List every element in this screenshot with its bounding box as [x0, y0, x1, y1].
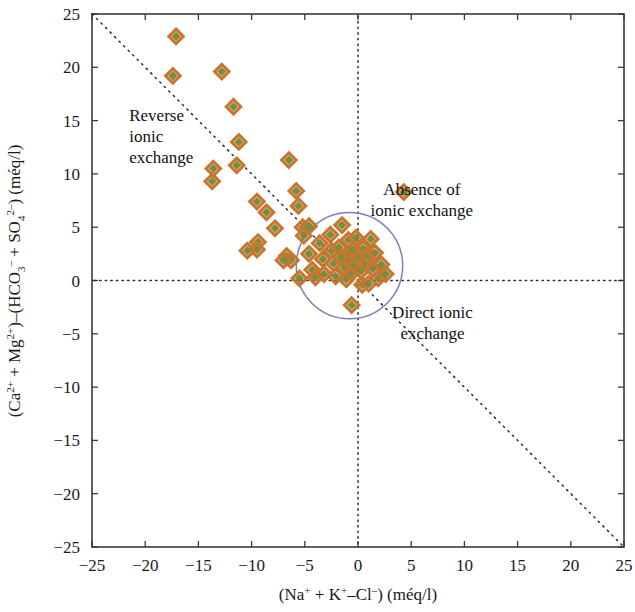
y-tick-label: 20: [63, 58, 80, 77]
y-tick-label: −15: [53, 431, 80, 450]
x-tick-label: −20: [132, 556, 159, 575]
reverse-ionic-exchange-label-line: ionic: [129, 127, 163, 146]
data-point-marker: [291, 199, 305, 213]
data-point-marker: [169, 29, 183, 43]
x-tick-label: −15: [185, 556, 212, 575]
absence-of-ionic-exchange-label-line: Absence of: [383, 180, 460, 199]
data-point-marker: [215, 64, 229, 78]
x-axis-title: (Na+ + K+–Cl–) (méq/l): [279, 584, 437, 604]
y-tick-label: −25: [53, 538, 80, 557]
data-point-marker: [292, 271, 306, 285]
y-tick-label: 15: [63, 112, 80, 131]
x-tick-label: 5: [407, 556, 416, 575]
data-point-marker: [250, 194, 264, 208]
y-tick-label: 25: [63, 5, 80, 24]
data-point-marker: [289, 184, 303, 198]
plot-canvas: −25−20−15−10−50510152025 −25−20−15−10−50…: [0, 0, 635, 612]
reverse-ionic-exchange-label-line: Reverse: [129, 106, 184, 125]
x-tick-label: −10: [238, 556, 265, 575]
direct-ionic-exchange-label-line: Direct ionic: [392, 303, 473, 322]
y-tick-label: 5: [72, 218, 81, 237]
direct-ionic-exchange-label: Direct ionicexchange: [392, 303, 473, 343]
data-point-marker: [268, 221, 282, 235]
y-tick-label: 0: [72, 272, 81, 291]
data-point-marker: [166, 69, 180, 83]
reverse-ionic-exchange-label-line: exchange: [129, 148, 193, 167]
y-tick-label: 10: [63, 165, 80, 184]
y-tick-label: −20: [53, 485, 80, 504]
reverse-ionic-exchange-label: Reverseionicexchange: [129, 106, 193, 167]
y-tick-label: −5: [62, 325, 80, 344]
scatter-plot-figure: −25−20−15−10−50510152025 −25−20−15−10−50…: [0, 0, 635, 612]
y-axis-title: (Ca2+ + Mg2+)–(HCO3– + SO42–) (méq/l): [4, 145, 27, 418]
x-tick-label: −5: [296, 556, 314, 575]
x-tick-label: 15: [509, 556, 526, 575]
x-axis-tick-labels: −25−20−15−10−50510152025: [79, 556, 633, 575]
y-tick-label: −10: [53, 378, 80, 397]
data-point-marker: [282, 153, 296, 167]
data-point-marker: [226, 100, 240, 114]
y-axis-tick-labels: −25−20−15−10−50510152025: [53, 5, 80, 557]
x-tick-label: 25: [616, 556, 633, 575]
x-tick-label: 10: [456, 556, 473, 575]
data-point-marker: [259, 205, 273, 219]
x-tick-label: −25: [79, 556, 106, 575]
data-point-marker: [230, 158, 244, 172]
data-point-marker: [344, 298, 358, 312]
data-points: [166, 29, 411, 312]
direct-ionic-exchange-label-line: exchange: [400, 324, 464, 343]
absence-of-ionic-exchange-label: Absence ofionic exchange: [371, 180, 473, 220]
data-point-marker: [232, 135, 246, 149]
x-tick-label: 0: [354, 556, 363, 575]
x-tick-label: 20: [562, 556, 579, 575]
data-point-marker: [335, 218, 349, 232]
absence-of-ionic-exchange-label-line: ionic exchange: [371, 201, 473, 220]
data-point-marker: [205, 174, 219, 188]
